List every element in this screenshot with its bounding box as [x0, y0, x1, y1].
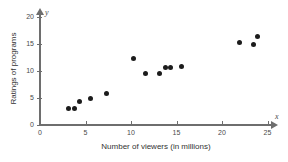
y-axis-title: Ratings of programs	[9, 9, 18, 129]
x-tick-mark	[131, 121, 132, 126]
scatter-plot: x y 051015202505101520 Number of viewers…	[0, 0, 288, 162]
x-tick-mark	[268, 121, 269, 126]
data-point	[143, 71, 148, 76]
y-axis-arrow-icon	[36, 8, 44, 15]
data-point	[251, 42, 256, 47]
x-tick-label: 15	[167, 128, 187, 137]
x-tick-mark	[177, 121, 178, 126]
x-tick-label: 10	[121, 128, 141, 137]
data-point	[66, 106, 71, 111]
y-tick-mark	[37, 44, 42, 45]
data-point	[104, 91, 109, 96]
data-point	[255, 34, 260, 39]
x-tick-mark	[222, 121, 223, 126]
y-tick-mark	[37, 98, 42, 99]
y-tick-mark	[37, 17, 42, 18]
x-tick-mark	[86, 121, 87, 126]
data-point	[168, 65, 173, 70]
x-tick-label: 25	[258, 128, 278, 137]
data-point	[88, 96, 93, 101]
y-tick-mark	[37, 71, 42, 72]
data-point	[157, 71, 162, 76]
y-axis-symbol: y	[45, 8, 49, 17]
x-tick-label: 20	[212, 128, 232, 137]
data-point	[77, 99, 82, 104]
data-point	[237, 40, 242, 45]
x-tick-label: 0	[30, 128, 50, 137]
x-axis-line	[40, 124, 272, 126]
y-axis-line	[39, 14, 41, 125]
x-tick-label: 5	[76, 128, 96, 137]
x-axis-symbol: x	[275, 112, 279, 121]
y-tick-mark	[37, 125, 42, 126]
data-point	[72, 106, 77, 111]
data-point	[179, 64, 184, 69]
x-axis-title: Number of viewers (in millions)	[40, 142, 272, 151]
data-point	[131, 56, 136, 61]
